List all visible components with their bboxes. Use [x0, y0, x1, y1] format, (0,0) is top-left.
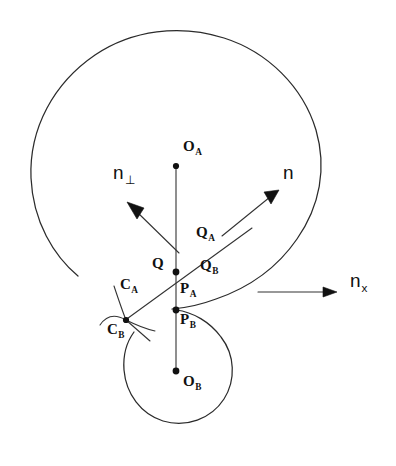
- label-curve-cb-text: C: [107, 321, 118, 337]
- arrow-n-head: [264, 190, 279, 204]
- label-point-qb-text: Q: [200, 257, 212, 273]
- label-point-pa: PA: [180, 281, 196, 299]
- label-curve-ca-text: C: [120, 276, 131, 292]
- dot-q: [173, 269, 180, 276]
- label-point-qb-sub: B: [212, 266, 219, 276]
- small-circle-arc: [124, 310, 232, 423]
- arrow-nx-head: [323, 287, 337, 297]
- label-normal-nx: nx: [350, 271, 367, 294]
- label-normal-n: n: [283, 163, 294, 182]
- label-point-qb: QB: [200, 258, 218, 276]
- figure-root: OA OB Q QA QB PA PB CA CB n⊥ n nx: [0, 0, 396, 466]
- label-point-pa-text: P: [180, 280, 189, 296]
- label-curve-ca: CA: [120, 277, 138, 295]
- label-curve-cb: CB: [107, 322, 125, 340]
- label-point-pa-sub: A: [189, 289, 196, 299]
- label-center-b: OB: [183, 374, 201, 392]
- arrow-n-shaft: [222, 197, 270, 236]
- dot-oa: [173, 163, 179, 169]
- label-center-a: OA: [183, 139, 202, 157]
- label-point-qa: QA: [196, 225, 215, 243]
- label-point-pb: PB: [180, 312, 196, 330]
- label-center-b-sub: B: [195, 382, 202, 392]
- label-normal-nx-text: n: [350, 270, 361, 291]
- dot-p: [173, 307, 180, 314]
- arrow-n-perp-shaft: [136, 211, 179, 253]
- label-point-qa-sub: A: [208, 233, 215, 243]
- label-center-b-text: O: [183, 373, 195, 389]
- dot-ob: [173, 368, 180, 375]
- label-curve-cb-sub: B: [118, 330, 125, 340]
- label-normal-n-text: n: [283, 162, 294, 183]
- label-center-a-sub: A: [195, 147, 202, 157]
- label-normal-nx-sub: x: [361, 281, 368, 294]
- label-point-q: Q: [152, 256, 164, 271]
- label-center-a-text: O: [183, 138, 195, 154]
- label-point-pb-text: P: [180, 311, 189, 327]
- label-normal-perp: n⊥: [113, 163, 135, 186]
- label-point-q-text: Q: [152, 255, 164, 271]
- label-curve-ca-sub: A: [131, 285, 138, 295]
- curve-cb-stroke-right: [126, 320, 155, 331]
- label-normal-perp-text: n: [113, 162, 124, 183]
- label-normal-perp-sub: ⊥: [124, 173, 135, 186]
- label-point-qa-text: Q: [196, 224, 208, 240]
- label-point-pb-sub: B: [189, 320, 196, 330]
